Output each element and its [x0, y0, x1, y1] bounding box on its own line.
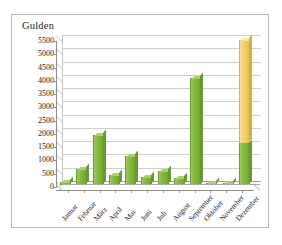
- bar-side-face: [200, 72, 203, 184]
- chart-container: Gulden 050010001500200025003000350040004…: [11, 14, 269, 228]
- y-axis-tick-label: 3000: [38, 103, 54, 111]
- bar-column[interactable]: [239, 39, 250, 185]
- bar-side-face: [151, 171, 154, 184]
- bar-column[interactable]: [93, 39, 104, 185]
- gridline: [62, 35, 261, 36]
- x-axis-tick-label: Januar: [60, 202, 79, 222]
- y-axis-tick-label: 500: [42, 170, 54, 178]
- y-axis-line: [56, 41, 57, 188]
- x-axis-tick-mark: [195, 190, 196, 193]
- y-axis-tick-label: 2500: [38, 117, 54, 125]
- bar-column[interactable]: [190, 39, 201, 185]
- bar-side-face: [119, 169, 122, 184]
- x-axis-tick-mark: [68, 190, 69, 193]
- x-axis-tick-mark: [242, 190, 243, 193]
- x-axis-tick-mark: [163, 190, 164, 193]
- x-axis-tick-mark: [100, 190, 101, 193]
- y-axis-tick-label: 1000: [38, 156, 54, 164]
- bar-column[interactable]: [206, 39, 217, 185]
- x-axis-tick-mark: [210, 190, 211, 193]
- x-axis-tick-mark: [115, 190, 116, 193]
- x-axis-tick-label: Juli: [155, 209, 168, 222]
- bar-column[interactable]: [125, 39, 136, 185]
- bar-side-face: [103, 130, 106, 184]
- x-axis-tick-mark: [131, 190, 132, 193]
- y-axis-tick-label: 5500: [38, 37, 54, 45]
- x-axis-tick-mark: [226, 190, 227, 193]
- x-axis-tick-mark: [147, 190, 148, 193]
- bar-side-face: [249, 35, 252, 143]
- bar-column[interactable]: [109, 39, 120, 185]
- bar-column[interactable]: [141, 39, 152, 185]
- y-axis-tick-label: 1500: [38, 143, 54, 151]
- x-axis-tick-label: Mai: [124, 208, 138, 222]
- y-axis-tick-label: 2000: [38, 130, 54, 138]
- bar-segment-green[interactable]: [76, 169, 87, 185]
- bar-side-face: [135, 151, 138, 184]
- y-axis-tick-label: 5000: [38, 50, 54, 58]
- y-axis-tick-label: 4000: [38, 77, 54, 85]
- bar-column[interactable]: [60, 39, 71, 185]
- bar-segment-green[interactable]: [158, 171, 169, 185]
- bar-segment-green[interactable]: [190, 78, 201, 186]
- bar-column[interactable]: [174, 39, 185, 185]
- bar-segment-green[interactable]: [125, 156, 136, 185]
- y-axis-tick-label: 4500: [38, 64, 54, 72]
- bar-segment-green[interactable]: [93, 135, 104, 185]
- bar-segment-yellow[interactable]: [239, 40, 250, 142]
- y-axis-tick-labels: 0500100015002000250030003500400045005000…: [18, 15, 54, 227]
- bar-side-face: [86, 163, 89, 184]
- bar-side-face: [70, 177, 73, 184]
- x-axis-tick-label: April: [108, 205, 124, 222]
- bar-column[interactable]: [76, 39, 87, 185]
- x-axis-tick-mark: [179, 190, 180, 193]
- bar-segment-green[interactable]: [239, 143, 250, 185]
- bar-column[interactable]: [223, 39, 234, 185]
- y-axis-tick-label: 3500: [38, 90, 54, 98]
- bar-side-face: [168, 165, 171, 184]
- bar-side-face: [249, 139, 252, 184]
- bar-series-group: [60, 39, 250, 185]
- bar-side-face: [184, 173, 187, 184]
- x-axis-tick-label: Juni: [140, 208, 154, 222]
- bar-column[interactable]: [158, 39, 169, 185]
- x-axis-tick-mark: [84, 190, 85, 193]
- x-axis-tick-labels: JanuarFebruarMärzAprilMaiJuniJuliAugustS…: [56, 185, 266, 225]
